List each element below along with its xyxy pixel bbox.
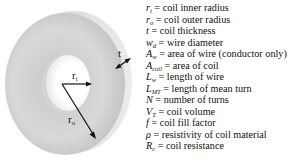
legend-item: Rc = coil resistance bbox=[146, 140, 224, 154]
thickness-label: t bbox=[118, 47, 121, 59]
ring-hole bbox=[46, 55, 90, 111]
coil-ring-illustration: ri ro t bbox=[0, 0, 140, 166]
coil-diagram: ri ro t bbox=[0, 0, 140, 166]
